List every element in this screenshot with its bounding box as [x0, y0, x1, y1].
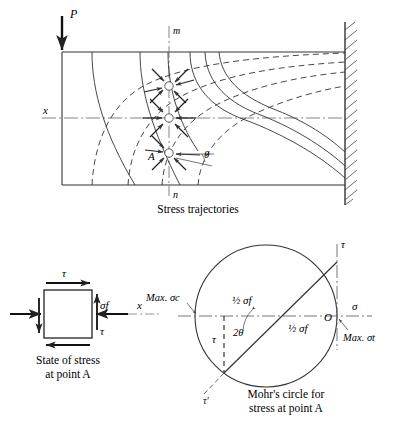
shear-label-top: τ: [62, 267, 67, 279]
element-axis-label-x: x: [136, 299, 142, 311]
neutral-axis-label-x: x: [42, 104, 48, 116]
tau-prime-label: τ′: [203, 395, 210, 406]
tau-prime-extension: [204, 373, 224, 394]
load-label-P: P: [69, 7, 78, 21]
origin-label-O: O: [324, 311, 332, 323]
max-compression-leader: [187, 303, 196, 314]
beam-diagram: P x m n: [42, 7, 357, 216]
max-compression-label: Max. σc: [145, 292, 180, 303]
half-sigma-f-right-label: ½ σf: [288, 322, 309, 334]
half-sigma-f-left-label: ½ σf: [232, 294, 253, 306]
trajectories-solid: [92, 52, 345, 185]
mohr-caption-line1: Mohr's circle for: [248, 388, 325, 400]
angle-label-2theta: 2θ: [233, 327, 243, 338]
stress-element-diagram: τ τ σf x State of stress at point A: [10, 267, 160, 381]
point-label-A: A: [147, 150, 155, 162]
section-label-n: n: [173, 189, 178, 200]
angle-2theta-arc: [243, 310, 252, 331]
beam-outline: [62, 52, 345, 185]
stress-element-caption-line1: State of stress: [36, 354, 100, 366]
max-tension-label: Max. σt: [342, 332, 376, 343]
mohr-diameter-line: [224, 262, 337, 373]
section-label-m: m: [173, 25, 180, 36]
stress-element-caption-line2: at point A: [45, 368, 91, 381]
trajectories-dashed: [92, 53, 345, 185]
stress-state-cluster-neutral: [143, 99, 196, 137]
mohr-circle-diagram: σ τ O τ′ τ 2θ ½ σf ½ σf: [145, 238, 376, 415]
sigma-axis-label: σ: [352, 300, 358, 312]
beam-caption: Stress trajectories: [157, 203, 239, 216]
angle-label-theta: θ: [204, 148, 210, 160]
fixed-support-wall: [345, 22, 357, 205]
mohr-caption-line2: stress at point A: [249, 402, 323, 415]
figure-canvas: P x m n: [0, 0, 396, 426]
engineering-figure: P x m n: [0, 0, 396, 426]
max-tension-leader: [339, 319, 348, 330]
stress-element-square: [44, 290, 92, 338]
normal-stress-label-sigma-f: σf: [100, 299, 110, 311]
tau-axis-label: τ: [341, 238, 346, 250]
shear-label-right: τ: [100, 325, 105, 337]
tau-ordinate-label: τ: [212, 333, 217, 345]
